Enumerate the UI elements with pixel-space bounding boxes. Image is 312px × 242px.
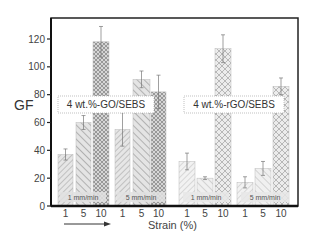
x-tick-label: 5 [202,208,208,219]
gauge-factor-bar-chart: 1 mm/min 5 mm/min 1 mm/min 5 mm/min 4 wt… [0,0,312,242]
y-axis-title: GF [14,97,33,113]
y-tick-label: 120 [28,34,45,45]
x-tick-label: 10 [217,208,229,219]
y-tick-label: 40 [34,145,46,156]
y-tick-label: 60 [34,117,46,128]
x-tick-label: 1 [184,208,190,219]
x-tick-label: 1 [120,208,126,219]
rgo-annotation: 4 wt.%-rGO/SEBS [184,96,284,113]
speed-label-rgo-1: 1 mm/min [191,194,222,201]
y-tick-label: 20 [34,173,46,184]
rgo-annotation-text: 4 wt.%-rGO/SEBS [193,99,275,110]
x-tick-label: 10 [275,208,287,219]
x-axis-title: Strain (%) [148,219,197,231]
go-annotation: 4 wt.%-GO/SEBS [58,96,154,113]
y-tick-label: 80 [34,89,46,100]
speed-label-rgo-5: 5 mm/min [250,194,281,201]
x-tick-label: 10 [153,208,165,219]
x-tick-label: 1 [63,208,69,219]
x-tick-label: 5 [139,208,145,219]
speed-labels: 1 mm/min 5 mm/min 1 mm/min 5 mm/min [60,192,289,202]
x-tick-label: 10 [95,208,107,219]
x-tick-label: 5 [260,208,266,219]
y-tick-label: 100 [28,61,45,72]
x-tick-label: 5 [81,208,87,219]
bar [215,49,231,206]
y-tick-label: 0 [39,201,45,212]
bars-layer [58,42,289,206]
y-axis-ticks: 020406080100120 [28,34,51,212]
speed-label-go-5: 5 mm/min [126,194,157,201]
strain-arrow-icon [64,222,111,227]
x-tick-label: 1 [242,208,248,219]
bar [93,42,109,206]
x-axis-ticks: 1510151015101510 [63,208,287,219]
speed-label-go-1: 1 mm/min [68,194,99,201]
go-annotation-text: 4 wt.%-GO/SEBS [67,99,146,110]
